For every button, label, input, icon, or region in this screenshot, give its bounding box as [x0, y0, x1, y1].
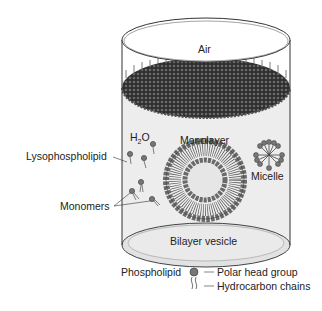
phospholipid-diagram: Air H2O Monolayer Micelle Lysophospholip…: [0, 0, 322, 311]
monolayer-label: Monolayer: [180, 135, 229, 146]
legend-phospholipid-label: Phospholipid: [121, 267, 181, 278]
lysophospholipid-label: Lysophospholipid: [26, 151, 107, 162]
bilayer-vesicle-label: Bilayer vesicle: [170, 236, 237, 247]
monomers-label: Monomers: [60, 201, 110, 212]
legend-hydrocarbon-label: Hydrocarbon chains: [217, 281, 310, 292]
water-h: H: [130, 131, 138, 143]
micelle: [254, 140, 285, 171]
water-label: H2O: [130, 132, 150, 145]
legend-phospholipid-icon: [190, 268, 198, 289]
legend-polar-head-label: Polar head group: [217, 267, 298, 278]
air-label: Air: [198, 44, 211, 55]
water-o: O: [142, 131, 150, 143]
cylinder-top-rim: [122, 18, 290, 62]
micelle-label: Micelle: [251, 171, 284, 182]
